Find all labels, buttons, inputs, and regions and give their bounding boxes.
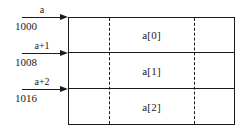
row-divider-2 (69, 88, 234, 89)
cell-label-a0: a[0] (69, 29, 234, 41)
pointer-label-a: a (22, 4, 62, 15)
array-memory-layout-diagram: a 1000 a+1 1008 a+2 1016 a[0] a[1] a[2] (0, 0, 243, 135)
arrow-shaft-a-plus-2 (22, 89, 61, 90)
arrow-shaft-a-plus-1 (22, 53, 61, 54)
pointer-label-a-plus-2: a+2 (22, 76, 62, 87)
arrow-head-icon-a (60, 14, 68, 20)
arrow-head-icon-a-plus-2 (60, 86, 68, 92)
arrow-shaft-a (22, 17, 61, 18)
row-divider-1 (69, 52, 234, 53)
address-label-1008: 1008 (15, 56, 37, 68)
arrow-head-icon-a-plus-1 (60, 50, 68, 56)
address-label-1000: 1000 (15, 20, 37, 32)
cell-label-a1: a[1] (69, 65, 234, 77)
memory-block: a[0] a[1] a[2] (68, 17, 235, 125)
cell-label-a2: a[2] (69, 101, 234, 113)
pointer-label-a-plus-1: a+1 (22, 40, 62, 51)
address-label-1016: 1016 (15, 92, 37, 104)
